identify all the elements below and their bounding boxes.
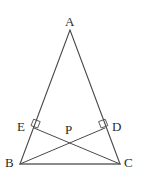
geometry-figure: A B C D E P (0, 0, 142, 189)
segment-side-AB (20, 30, 70, 164)
vertex-label-P: P (65, 123, 72, 136)
triangle-sides (20, 30, 120, 164)
vertex-label-E: E (17, 120, 25, 133)
segment-side-AC (70, 30, 120, 164)
segment-cevian-BD (20, 128, 105, 164)
vertex-label-B: B (5, 156, 14, 169)
vertex-label-A: A (65, 15, 74, 28)
vertex-label-D: D (112, 120, 121, 133)
segment-cevian-CE (34, 128, 120, 164)
vertex-label-C: C (124, 156, 133, 169)
